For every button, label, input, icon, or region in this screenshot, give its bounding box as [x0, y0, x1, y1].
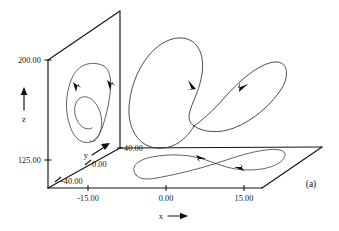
projection-xy-arrow-bottom — [234, 164, 244, 171]
x-axis-title: x — [159, 211, 164, 221]
y-axis-title: y — [84, 150, 89, 160]
x-tick-label-15: 15.00 — [235, 194, 254, 203]
trajectory-3d — [129, 38, 287, 148]
y-tick-label-minus40: -40.00 — [61, 177, 83, 186]
arrow-right-icon — [180, 213, 188, 219]
arrow-up-icon — [21, 87, 28, 95]
y-tick-label-0: 0.00 — [92, 160, 107, 169]
trajectory-3d-path — [129, 38, 287, 148]
projection-xy — [134, 149, 285, 179]
panel-label: (a) — [306, 179, 316, 190]
x-tick-label-minus15: -15.00 — [77, 194, 99, 203]
z-tick-label-200: 200.00 — [18, 56, 41, 65]
projection-yz-arrow-left — [73, 82, 81, 92]
z-tick-label-125: 125.00 — [18, 156, 41, 165]
projection-xy-arrow-top — [196, 155, 206, 162]
z-axis-title: z — [22, 114, 26, 124]
x-tick-label-0: 0.00 — [159, 194, 174, 203]
back-plane-top-edge — [48, 11, 120, 60]
trajectory-arrow-left — [186, 80, 196, 90]
projection-xy-path — [134, 149, 285, 179]
projection-yz-path — [66, 63, 104, 142]
phase-portrait-plot: 200.00 125.00 -40.00 0.00 40.00 -15.00 0… — [0, 0, 339, 231]
trajectory-arrow-right — [238, 82, 248, 92]
figure-container: 200.00 125.00 -40.00 0.00 40.00 -15.00 0… — [0, 0, 339, 231]
y-tick-label-40: 40.00 — [124, 144, 143, 153]
projection-yz — [66, 63, 115, 142]
